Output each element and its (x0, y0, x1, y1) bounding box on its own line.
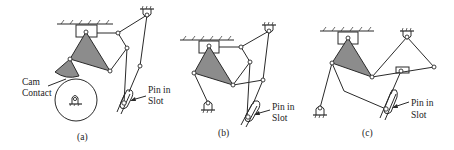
ground-top-c (320, 27, 374, 31)
label-pin-b-1: Pin in (272, 102, 295, 112)
label-pin-a-1: Pin in (148, 85, 171, 95)
pin-a (122, 101, 126, 105)
label-pin-c-1: Pin in (411, 98, 434, 108)
panel-b: Pin in Slot (b) (180, 22, 295, 139)
label-cam: Cam (22, 77, 41, 87)
ground-pivot-c-right (400, 28, 414, 39)
ground-pivot-cam (69, 96, 82, 107)
caption-b: (b) (218, 128, 229, 139)
ground-top-a (57, 20, 113, 24)
pin-c (384, 107, 388, 111)
cam-sector (55, 59, 79, 77)
ground-pivot-b-left (201, 101, 215, 113)
ground-pivot-a-right (140, 6, 154, 17)
label-pin-c-2: Slot (411, 110, 427, 120)
pin-b (246, 115, 250, 119)
caption-c: (c) (362, 128, 373, 139)
panel-c: Pin in Slot (c) (313, 27, 436, 139)
caption-a: (a) (77, 132, 88, 143)
label-pin-a-2: Slot (148, 96, 164, 106)
slot-c (380, 90, 397, 120)
label-pin-b-2: Slot (272, 113, 288, 123)
panel-a: Cam Contact Pin in Slot (a) (22, 6, 171, 143)
ground-top-b (180, 36, 234, 40)
label-contact: Contact (22, 88, 52, 98)
ternary-link-b (194, 46, 233, 85)
ground-pivot-c-left (313, 106, 327, 118)
mechanism-diagram: Cam Contact Pin in Slot (a) (0, 0, 454, 150)
ground-pivot-b-right (262, 22, 276, 33)
ternary-link-a (70, 32, 110, 71)
